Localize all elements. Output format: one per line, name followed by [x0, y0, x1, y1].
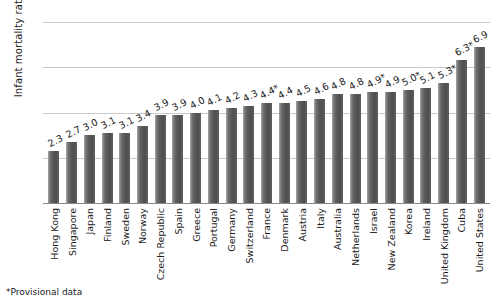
bar: [474, 47, 485, 203]
bar-slot: 3.1: [116, 22, 134, 203]
bar-value-label: 4.9: [383, 73, 401, 90]
bar: [367, 92, 378, 203]
bar-slot: 4.3: [240, 22, 258, 203]
bar-slot: 4.8: [346, 22, 364, 203]
bar-value-label: 5.1: [418, 69, 436, 86]
gridline: [43, 203, 490, 204]
bar: [332, 94, 343, 203]
bar: [279, 103, 290, 203]
bar: [296, 101, 307, 203]
bar-slot: 3.9: [169, 22, 187, 203]
x-label-slot: Korea: [399, 206, 417, 298]
bar-slot: 3.1: [98, 22, 116, 203]
x-axis-label: Australia: [332, 208, 343, 250]
x-label-slot: United Kingdom: [435, 206, 453, 298]
bar-value-label: 3.0: [81, 116, 99, 133]
bar-value-label: 4.3: [241, 87, 259, 104]
x-axis-label: Portugal: [208, 208, 219, 247]
bar: [385, 92, 396, 203]
bar: [226, 108, 237, 203]
bar-value-label: 4.1: [205, 92, 223, 109]
bar-slot: 4.2: [222, 22, 240, 203]
bar-slot: 4.5: [293, 22, 311, 203]
bar-slot: 4.9: [382, 22, 400, 203]
x-axis-label: Singapore: [66, 208, 77, 256]
bar-slot: 3.0: [80, 22, 98, 203]
bar: [420, 88, 431, 203]
x-axis-label: Hong Kong: [48, 208, 59, 260]
x-axis-label: Finland: [102, 208, 113, 242]
bar: [190, 113, 201, 204]
x-axis-label: Greece: [190, 208, 201, 242]
x-label-slot: Austria: [293, 206, 311, 298]
bar-slot: 4.4: [275, 22, 293, 203]
bar: [438, 83, 449, 203]
x-axis-label: United States: [474, 208, 485, 272]
bar-value-label: 4.6: [312, 80, 330, 97]
bar-slot: 5.0*: [399, 22, 417, 203]
bar: [350, 94, 361, 203]
x-label-slot: Sweden: [116, 206, 134, 298]
bar-value-label: 4.2: [223, 89, 241, 106]
x-axis-label: Korea: [403, 208, 414, 235]
bar-slot: 6.9: [470, 22, 488, 203]
x-axis-label: United Kingdom: [438, 208, 449, 284]
bar: [261, 103, 272, 203]
bar-slot: 2.7: [63, 22, 81, 203]
x-label-slot: New Zealand: [382, 206, 400, 298]
bar: [155, 115, 166, 203]
x-label-slot: Hong Kong: [45, 206, 63, 298]
x-label-slot: Israel: [364, 206, 382, 298]
x-axis-label: Czech Republic: [155, 208, 166, 280]
bar: [137, 126, 148, 203]
bar-slot: 4.6: [311, 22, 329, 203]
bar-slot: 4.9*: [364, 22, 382, 203]
x-label-slot: Cuba: [453, 206, 471, 298]
x-axis-label: New Zealand: [385, 208, 396, 270]
x-axis-label: Cuba: [456, 208, 467, 233]
bar-slot: 5.3*: [435, 22, 453, 203]
x-label-slot: Italy: [311, 206, 329, 298]
x-axis-label: Norway: [137, 208, 148, 244]
bar-value-label: 2.7: [64, 123, 82, 140]
bar-value-label: 3.1: [99, 114, 117, 131]
x-axis-label: Japan: [84, 208, 95, 235]
footnote: *Provisional data: [6, 287, 82, 297]
x-label-slot: Australia: [329, 206, 347, 298]
infant-mortality-bar-chart: Infant mortality rate 02468 2.32.73.03.1…: [0, 0, 504, 303]
x-label-slot: Ireland: [417, 206, 435, 298]
bar: [119, 133, 130, 203]
x-label-slot: Spain: [169, 206, 187, 298]
bar-slot: 2.3: [45, 22, 63, 203]
bar-slot: 3.4: [134, 22, 152, 203]
x-axis-label: France: [261, 208, 272, 240]
bar: [456, 60, 467, 203]
bar-value-label: 4.8: [329, 76, 347, 93]
bar-value-label: 3.4: [134, 107, 152, 124]
x-axis-label: Ireland: [420, 208, 431, 241]
bar-slot: 5.1: [417, 22, 435, 203]
x-axis-category-labels: Hong KongSingaporeJapanFinlandSwedenNorw…: [43, 206, 490, 298]
bar-value-label: 6.9: [471, 28, 489, 45]
x-label-slot: Norway: [134, 206, 152, 298]
x-label-slot: Greece: [187, 206, 205, 298]
bar: [102, 133, 113, 203]
bar: [403, 90, 414, 203]
x-axis-label: Italy: [314, 208, 325, 229]
bar-value-label: 3.9: [152, 96, 170, 113]
plot-area: 02468 2.32.73.03.13.13.43.93.94.04.14.24…: [43, 22, 490, 203]
y-axis-title: Infant mortality rate: [13, 0, 24, 136]
bar-value-label: 4.8: [347, 76, 365, 93]
bar: [66, 142, 77, 203]
x-label-slot: Germany: [222, 206, 240, 298]
x-label-slot: Portugal: [204, 206, 222, 298]
bar: [84, 135, 95, 203]
bar-value-label: 3.9: [170, 96, 188, 113]
x-axis-label: Austria: [296, 208, 307, 242]
bar-slot: 4.8: [329, 22, 347, 203]
bar-slot: 4.1: [204, 22, 222, 203]
x-axis-label: Germany: [226, 208, 237, 252]
x-label-slot: France: [258, 206, 276, 298]
x-axis-label: Israel: [367, 208, 378, 234]
x-axis-label: Sweden: [119, 208, 130, 246]
